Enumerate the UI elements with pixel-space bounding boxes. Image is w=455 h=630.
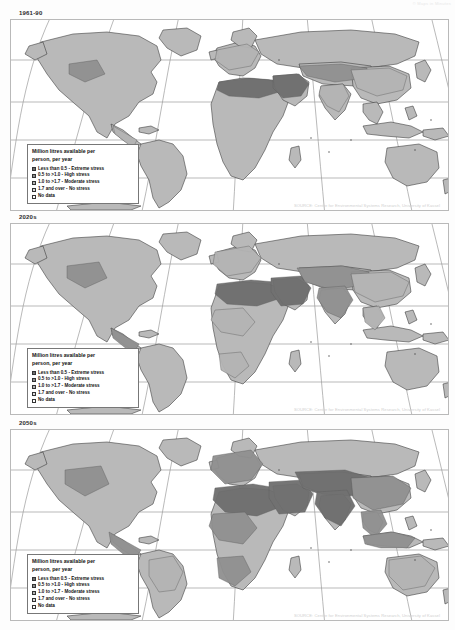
legend-swatch-icon: [32, 591, 36, 595]
legend-item-label: Less than 0.5 - Extreme stress: [38, 166, 104, 173]
legend-item-label: Less than 0.5 - Extreme stress: [38, 370, 104, 377]
legend-swatch-icon: [32, 195, 36, 199]
legend-item-nodata: No data: [32, 603, 135, 610]
source-note: SOURCE: Centre for Environmental Systems…: [294, 613, 440, 618]
legend-swatch-icon: [32, 584, 36, 588]
legend-item-moderate: 1.0 to >1.7 - Moderate stress: [32, 383, 135, 390]
panel-year-label: 2050s: [19, 420, 37, 426]
legend-item-high: 0.5 to >1.0 - High stress: [32, 376, 135, 383]
corner-credit: © Maps in Minutes: [413, 1, 451, 6]
legend-swatch-icon: [32, 399, 36, 403]
legend-title: Million litres available per person, per…: [32, 148, 135, 163]
legend-item-label: 1.7 and over - No stress: [38, 596, 90, 603]
legend-title-line-2: person, per year: [32, 360, 135, 368]
legend-item-label: No data: [38, 397, 55, 404]
legend-item-label: No data: [38, 193, 55, 200]
legend-swatch-icon: [32, 188, 36, 192]
legend-title-line-2: person, per year: [32, 156, 135, 164]
panel-year-label: 1961-90: [19, 10, 42, 16]
legend-swatch-icon: [32, 605, 36, 609]
map-legend: Million litres available per person, per…: [27, 144, 139, 204]
legend-item-high: 0.5 to >1.0 - High stress: [32, 582, 135, 589]
legend-swatch-icon: [32, 167, 36, 171]
legend-title-line-1: Million litres available per: [32, 558, 135, 566]
world-map: Million litres available per person, per…: [10, 19, 449, 211]
legend-item-label: 1.7 and over - No stress: [38, 390, 90, 397]
legend-item-extreme: Less than 0.5 - Extreme stress: [32, 370, 135, 377]
legend-title-line-1: Million litres available per: [32, 352, 135, 360]
legend-item-label: Less than 0.5 - Extreme stress: [38, 576, 104, 583]
legend-item-label: 1.0 to >1.7 - Moderate stress: [38, 589, 100, 596]
legend-item-label: No data: [38, 603, 55, 610]
legend-swatch-icon: [32, 392, 36, 396]
source-note: SOURCE: Centre for Environmental Systems…: [294, 203, 440, 208]
legend-item-high: 0.5 to >1.0 - High stress: [32, 172, 135, 179]
legend-item-none: 1.7 and over - No stress: [32, 390, 135, 397]
legend-swatch-icon: [32, 385, 36, 389]
legend-swatch-icon: [32, 371, 36, 375]
legend-item-label: 0.5 to >1.0 - High stress: [38, 172, 89, 179]
legend-item-none: 1.7 and over - No stress: [32, 186, 135, 193]
legend-swatch-icon: [32, 378, 36, 382]
legend-title-line-1: Million litres available per: [32, 148, 135, 156]
legend-item-label: 1.0 to >1.7 - Moderate stress: [38, 179, 100, 186]
legend-title-line-2: person, per year: [32, 566, 135, 574]
legend-item-none: 1.7 and over - No stress: [32, 596, 135, 603]
legend-item-extreme: Less than 0.5 - Extreme stress: [32, 166, 135, 173]
legend-swatch-icon: [32, 577, 36, 581]
legend-title: Million litres available per person, per…: [32, 352, 135, 367]
legend-swatch-icon: [32, 598, 36, 602]
source-note: SOURCE: Centre for Environmental Systems…: [294, 407, 440, 412]
legend-item-nodata: No data: [32, 397, 135, 404]
panel-year-label: 2020s: [19, 214, 37, 220]
legend-item-nodata: No data: [32, 193, 135, 200]
legend-swatch-icon: [32, 174, 36, 178]
legend-swatch-icon: [32, 181, 36, 185]
page-root: © Maps in Minutes 1961-90: [0, 0, 455, 630]
legend-item-extreme: Less than 0.5 - Extreme stress: [32, 576, 135, 583]
legend-item-label: 1.7 and over - No stress: [38, 186, 90, 193]
legend-item-label: 0.5 to >1.0 - High stress: [38, 582, 89, 589]
world-map: Million litres available per person, per…: [10, 429, 449, 621]
legend-title: Million litres available per person, per…: [32, 558, 135, 573]
map-legend: Million litres available per person, per…: [27, 348, 139, 408]
world-map: Million litres available per person, per…: [10, 223, 449, 415]
legend-item-label: 1.0 to >1.7 - Moderate stress: [38, 383, 100, 390]
legend-item-label: 0.5 to >1.0 - High stress: [38, 376, 89, 383]
legend-item-moderate: 1.0 to >1.7 - Moderate stress: [32, 589, 135, 596]
map-legend: Million litres available per person, per…: [27, 554, 139, 614]
legend-item-moderate: 1.0 to >1.7 - Moderate stress: [32, 179, 135, 186]
